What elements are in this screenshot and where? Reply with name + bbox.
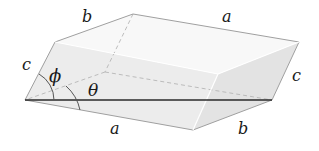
- parallelepiped-diagram: b a c ϕ θ c a b: [0, 0, 319, 151]
- label-theta: θ: [88, 80, 98, 100]
- label-right-c: c: [292, 66, 301, 85]
- label-phi: ϕ: [49, 65, 61, 86]
- label-top-a: a: [222, 7, 232, 26]
- label-bottom-b: b: [238, 119, 248, 138]
- label-top-b: b: [82, 7, 92, 26]
- label-bottom-a: a: [110, 119, 120, 138]
- label-left-c: c: [22, 55, 31, 74]
